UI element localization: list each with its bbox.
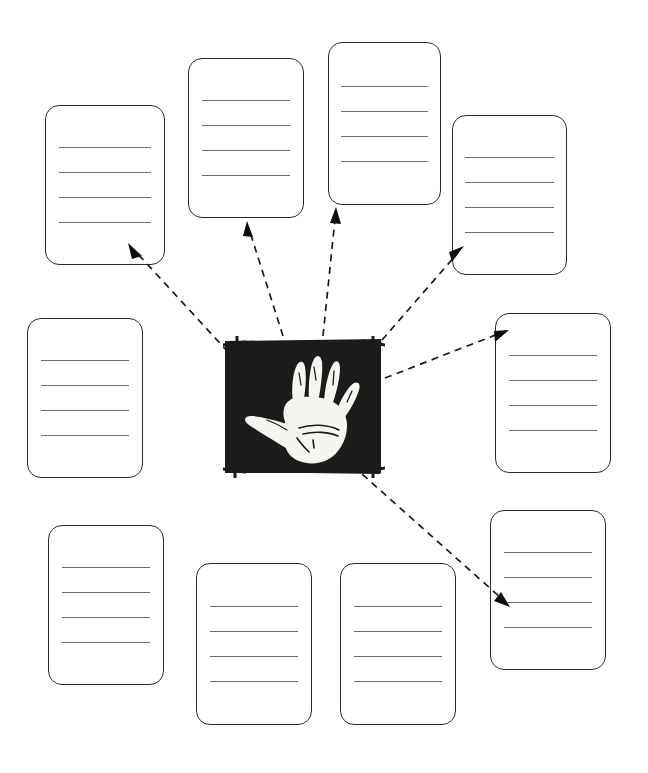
note-rule-line[interactable]	[62, 567, 151, 568]
note-rule-line[interactable]	[59, 222, 151, 223]
note-rule-line[interactable]	[509, 355, 598, 356]
note-rule-line[interactable]	[354, 631, 443, 632]
note-rule-line[interactable]	[509, 380, 598, 381]
note-rule-line[interactable]	[202, 100, 291, 101]
connector-5	[385, 330, 509, 378]
note-rule-group	[210, 564, 299, 724]
note-rule-line[interactable]	[41, 410, 130, 411]
note-rule-line[interactable]	[341, 86, 428, 87]
connector-2	[243, 221, 283, 336]
note-rule-line[interactable]	[354, 656, 443, 657]
note-rule-line[interactable]	[504, 602, 593, 603]
note-rule-line[interactable]	[41, 360, 130, 361]
note-rule-line[interactable]	[504, 627, 593, 628]
note-card[interactable]	[328, 42, 441, 205]
note-rule-line[interactable]	[465, 232, 553, 233]
note-rule-line[interactable]	[504, 552, 593, 553]
note-rule-line[interactable]	[210, 681, 299, 682]
note-rule-line[interactable]	[465, 207, 553, 208]
note-rule-line[interactable]	[202, 125, 291, 126]
note-rule-line[interactable]	[59, 197, 151, 198]
note-rule-line[interactable]	[41, 385, 130, 386]
note-rule-line[interactable]	[62, 592, 151, 593]
note-rule-line[interactable]	[62, 642, 151, 643]
note-rule-line[interactable]	[59, 147, 151, 148]
note-card[interactable]	[45, 105, 165, 265]
note-rule-line[interactable]	[210, 606, 299, 607]
note-rule-line[interactable]	[202, 175, 291, 176]
note-rule-group	[509, 314, 598, 472]
hand-stencil-photo	[223, 336, 385, 478]
note-rule-line[interactable]	[62, 617, 151, 618]
note-rule-line[interactable]	[465, 182, 553, 183]
note-card[interactable]	[196, 563, 312, 725]
note-rule-line[interactable]	[59, 172, 151, 173]
note-rule-line[interactable]	[341, 136, 428, 137]
note-rule-group	[354, 564, 443, 724]
note-rule-line[interactable]	[341, 111, 428, 112]
note-rule-line[interactable]	[354, 681, 443, 682]
note-rule-line[interactable]	[509, 405, 598, 406]
note-rule-line[interactable]	[210, 631, 299, 632]
note-card[interactable]	[340, 563, 456, 725]
note-card[interactable]	[495, 313, 611, 473]
note-rule-line[interactable]	[354, 606, 443, 607]
note-rule-line[interactable]	[509, 430, 598, 431]
note-card[interactable]	[188, 58, 304, 218]
note-rule-group	[465, 116, 553, 274]
note-rule-line[interactable]	[465, 157, 553, 158]
hand-stencil-artwork	[223, 336, 385, 478]
note-rule-line[interactable]	[41, 435, 130, 436]
note-rule-group	[62, 526, 151, 684]
note-card[interactable]	[27, 318, 143, 478]
note-card[interactable]	[490, 510, 606, 670]
note-rule-group	[59, 106, 151, 264]
connector-3	[323, 207, 341, 336]
note-card[interactable]	[48, 525, 164, 685]
note-rule-line[interactable]	[341, 161, 428, 162]
note-rule-group	[504, 511, 593, 669]
note-rule-line[interactable]	[210, 656, 299, 657]
note-rule-line[interactable]	[504, 577, 593, 578]
note-rule-line[interactable]	[202, 150, 291, 151]
worksheet-canvas	[0, 0, 648, 773]
note-card[interactable]	[452, 115, 567, 275]
note-rule-group	[202, 59, 291, 217]
note-rule-group	[41, 319, 130, 477]
note-rule-group	[341, 43, 428, 204]
